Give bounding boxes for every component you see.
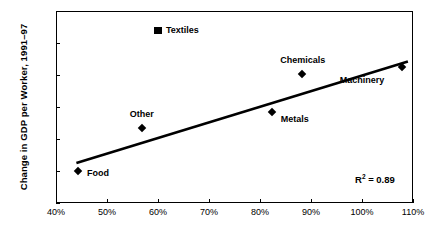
x-tick-mark [56, 199, 57, 203]
x-tick-label: 70% [189, 208, 229, 217]
data-point-label-metals: Metals [281, 115, 309, 124]
y-axis-title: Change in GDP per Worker, 1991–97 [18, 7, 29, 207]
x-tick-label: 80% [240, 208, 280, 217]
data-point-label-machinery: Machinery [340, 76, 385, 85]
y-tick-mark [56, 107, 60, 108]
x-tick-mark [107, 199, 108, 203]
y-tick-mark [56, 43, 60, 44]
y-tick-mark [56, 75, 60, 76]
x-tick-mark [209, 199, 210, 203]
x-tick-mark [158, 199, 159, 203]
r-squared-value: = 0.89 [366, 174, 395, 185]
r-squared-annotation: R2 = 0.89 [355, 173, 395, 185]
scatter-chart: Change in GDP per Worker, 1991–97 0%1%2%… [0, 0, 431, 242]
data-point-label-textiles: Textiles [166, 26, 199, 35]
y-tick-mark [56, 203, 60, 204]
x-tick-mark [413, 199, 414, 203]
x-tick-label: 40% [36, 208, 76, 217]
r-squared-prefix: R [355, 174, 362, 185]
y-tick-mark [56, 171, 60, 172]
y-tick-mark [56, 139, 60, 140]
x-tick-mark [260, 199, 261, 203]
y-tick-mark [56, 11, 60, 12]
data-point-label-chemicals: Chemicals [280, 56, 325, 65]
x-tick-label: 50% [87, 208, 127, 217]
data-point-label-food: Food [87, 169, 109, 178]
x-tick-label: 100% [342, 208, 382, 217]
x-tick-label: 60% [138, 208, 178, 217]
x-tick-mark [311, 199, 312, 203]
data-point-label-other: Other [130, 110, 154, 119]
x-tick-label: 110% [393, 208, 431, 217]
x-tick-mark [362, 199, 363, 203]
x-tick-label: 90% [291, 208, 331, 217]
